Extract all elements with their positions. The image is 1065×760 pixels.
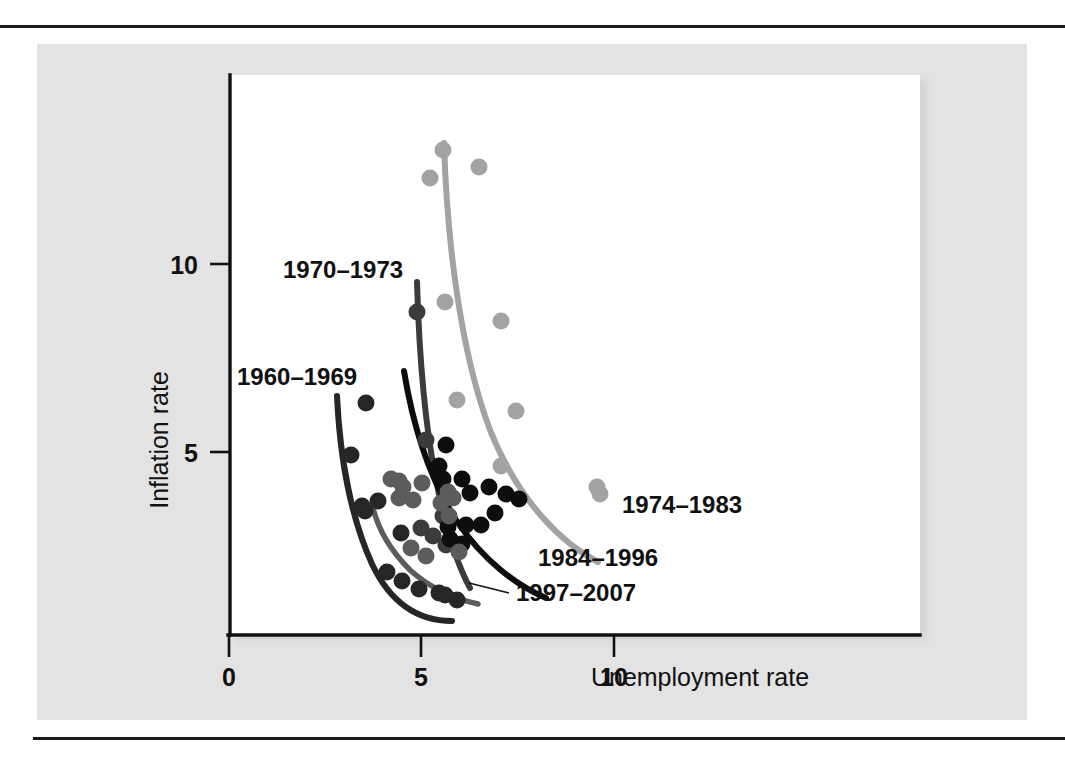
data-point <box>437 294 454 311</box>
leader-1997-2007 <box>469 583 509 593</box>
data-point <box>405 492 422 509</box>
data-point <box>379 564 396 581</box>
data-point <box>508 403 525 420</box>
data-point <box>458 517 475 534</box>
x-axis-title: Unemployment rate <box>591 663 809 691</box>
data-point <box>358 395 375 412</box>
annotation-leaders <box>469 583 509 593</box>
figure-container: 0 5 10 5 10 Unemployment rate Inflation … <box>0 0 1065 760</box>
y-ticklabel-10: 10 <box>170 251 198 279</box>
y-ticklabel-5: 5 <box>184 439 198 467</box>
x-ticklabel-5: 5 <box>414 663 428 691</box>
series-label-1974-1983: 1974–1983 <box>622 491 742 518</box>
data-point <box>487 505 504 522</box>
data-point <box>357 503 374 520</box>
y-axis-title: Inflation rate <box>145 371 173 509</box>
data-point <box>403 540 420 557</box>
data-point <box>418 432 435 449</box>
data-point <box>592 486 609 503</box>
y-axis-ticks <box>210 264 231 452</box>
data-point <box>422 170 439 187</box>
series-label-1970-1973: 1970–1973 <box>283 256 403 283</box>
data-point <box>511 491 528 508</box>
x-ticklabel-0: 0 <box>222 663 236 691</box>
data-point <box>473 517 490 534</box>
data-point <box>409 304 426 321</box>
data-point <box>462 485 479 502</box>
data-point <box>441 508 458 525</box>
series-label-1984-1996: 1984–1996 <box>538 544 658 571</box>
data-point <box>343 447 360 464</box>
data-point <box>394 573 411 590</box>
data-point <box>481 479 498 496</box>
data-point <box>411 581 428 598</box>
series-label-1997-2007: 1997–2007 <box>516 579 636 606</box>
data-point <box>493 458 510 475</box>
data-point <box>449 392 466 409</box>
data-point <box>414 475 431 492</box>
data-point <box>418 548 435 565</box>
series-label-1960-1969: 1960–1969 <box>237 363 357 390</box>
data-point <box>449 592 466 609</box>
data-point <box>393 525 410 542</box>
x-axis-ticks <box>229 636 614 657</box>
data-point <box>471 159 488 176</box>
data-point <box>493 313 510 330</box>
data-point <box>438 437 455 454</box>
data-point <box>451 544 468 561</box>
phillips-curve-chart: 0 5 10 5 10 Unemployment rate Inflation … <box>0 0 1065 760</box>
data-point <box>435 142 452 159</box>
